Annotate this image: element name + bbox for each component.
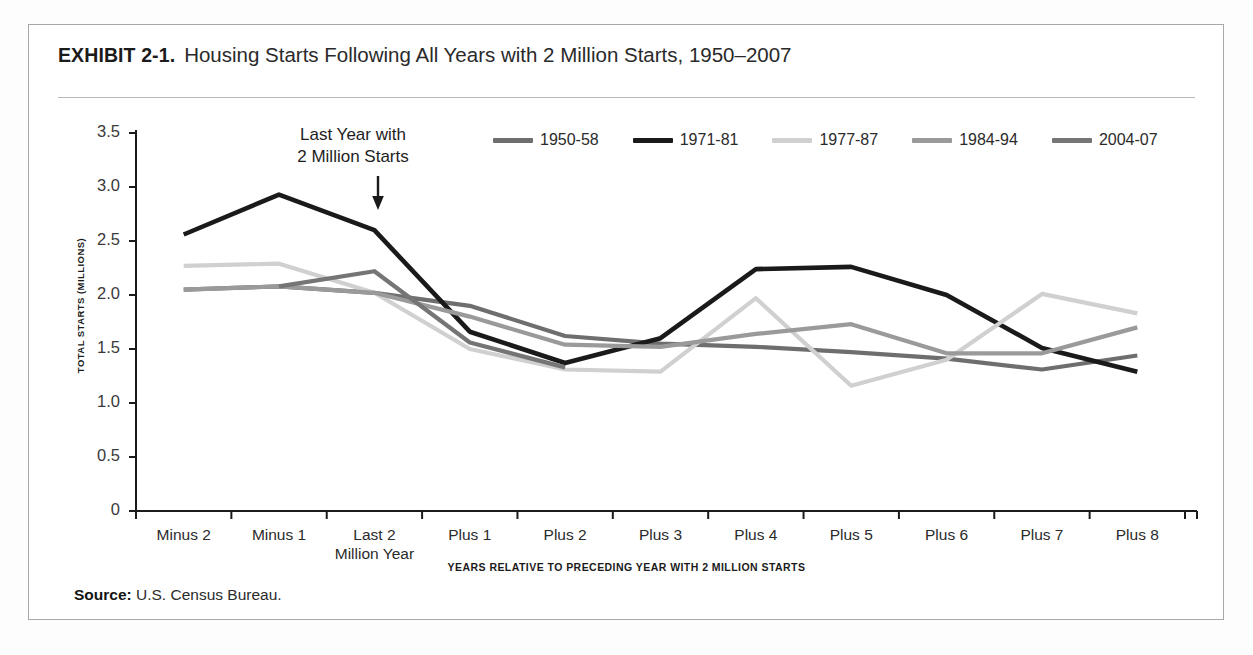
chart-legend: 1950-581971-811977-871984-942004-07 [493,131,1192,149]
legend-item-2004-07[interactable]: 2004-07 [1052,131,1158,149]
legend-item-1984-94[interactable]: 1984-94 [912,131,1018,149]
legend-item-1950-58[interactable]: 1950-58 [493,131,599,149]
legend-label: 2004-07 [1099,131,1158,149]
exhibit-header: EXHIBIT 2-1. Housing Starts Following Al… [58,43,1198,83]
exhibit-page: EXHIBIT 2-1. Housing Starts Following Al… [0,0,1253,655]
legend-label: 1971-81 [680,131,739,149]
header-divider [58,97,1195,98]
legend-swatch-icon [633,138,673,143]
exhibit-label: EXHIBIT 2-1. [58,44,175,67]
legend-item-1971-81[interactable]: 1971-81 [633,131,739,149]
source-label: Source: [74,586,132,603]
legend-label: 1950-58 [540,131,599,149]
source-text: U.S. Census Bureau. [136,586,282,603]
exhibit-title: Housing Starts Following All Years with … [184,43,791,67]
x-axis-title: YEARS RELATIVE TO PRECEDING YEAR WITH 2 … [0,561,1253,573]
annotation-line-1: Last Year with [258,124,448,146]
legend-swatch-icon [493,138,533,143]
legend-label: 1977-87 [819,131,878,149]
legend-swatch-icon [772,138,812,143]
legend-swatch-icon [912,138,952,143]
source-line: Source: U.S. Census Bureau. [74,586,282,604]
legend-item-1977-87[interactable]: 1977-87 [772,131,878,149]
legend-swatch-icon [1052,138,1092,143]
legend-label: 1984-94 [959,131,1018,149]
chart-annotation: Last Year with 2 Million Starts [258,124,448,168]
figure-frame [28,24,1224,620]
annotation-line-2: 2 Million Starts [258,146,448,168]
